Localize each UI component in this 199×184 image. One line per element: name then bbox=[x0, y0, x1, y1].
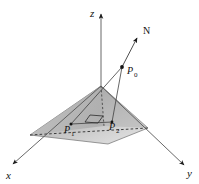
point-p2-label: P bbox=[108, 121, 115, 132]
plane-group bbox=[30, 86, 148, 144]
point-p2-subscript: 2 bbox=[116, 127, 120, 135]
z-axis-label: z bbox=[89, 7, 95, 19]
geometry-figure: z x y N P 0 P 1 P 2 bbox=[0, 0, 199, 184]
figure-canvas: z x y N P 0 P 1 P 2 bbox=[0, 0, 199, 184]
point-p0-dot bbox=[120, 65, 124, 69]
point-p0-subscript: 0 bbox=[134, 71, 138, 79]
normal-vector-label: N bbox=[143, 25, 150, 36]
point-p0-label: P bbox=[126, 65, 133, 76]
point-p1-subscript: 1 bbox=[71, 130, 75, 138]
point-p1-label: P bbox=[63, 124, 70, 135]
y-axis-label: y bbox=[186, 167, 192, 179]
normal-vector-arrow bbox=[122, 38, 137, 67]
x-axis-label: x bbox=[5, 169, 11, 181]
